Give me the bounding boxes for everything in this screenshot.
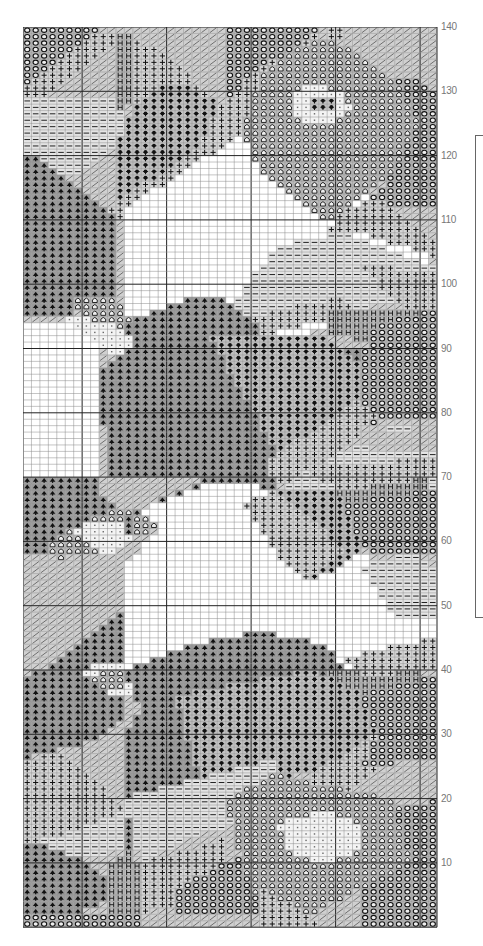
row-label: 80 [441, 408, 452, 418]
row-label: 140 [441, 22, 457, 32]
pattern-repeat-bracket [475, 135, 483, 618]
row-label: 110 [441, 215, 456, 225]
row-label: 60 [441, 536, 452, 546]
row-label: 120 [441, 151, 457, 161]
row-label: 100 [441, 279, 457, 289]
row-label: 20 [441, 794, 452, 804]
row-label: 50 [441, 601, 452, 611]
row-label: 30 [441, 729, 452, 739]
chart-svg [23, 27, 438, 928]
row-label: 70 [441, 472, 452, 482]
row-label: 130 [441, 86, 457, 96]
knitting-chart-grid [23, 27, 437, 927]
row-label: 90 [441, 344, 452, 354]
row-label: 40 [441, 665, 452, 675]
row-label: 10 [441, 858, 452, 868]
